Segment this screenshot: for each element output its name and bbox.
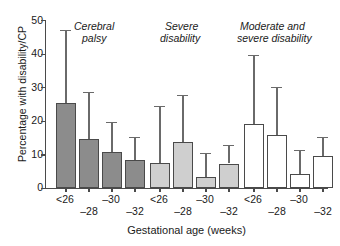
x-tick-mark-9 [253, 188, 254, 192]
x-tick-label-severe-disability-30: –30 [188, 194, 222, 205]
error-bar-cap-moderate-severe-30 [294, 150, 305, 151]
error-bar-cap-severe-disability-28 [177, 95, 188, 96]
x-tick-mark-3 [111, 188, 112, 192]
x-tick-mark-2 [88, 188, 89, 192]
bar-moderate-severe-lt26 [244, 124, 264, 188]
error-bar-stem-moderate-severe-28 [276, 87, 277, 135]
error-bar-cap-severe-disability-30 [200, 153, 211, 154]
error-bar-cap-moderate-severe-28 [271, 87, 282, 88]
x-tick-label-moderate-severe-30: –30 [282, 194, 316, 205]
x-tick-label-severe-disability-32: –32 [212, 206, 246, 217]
y-tick-label-40: 40 [3, 48, 43, 59]
error-bar-stem-severe-disability-28 [182, 95, 183, 142]
x-tick-label-severe-disability-28: –28 [166, 206, 200, 217]
error-bar-cap-cerebral-palsy-32 [129, 137, 140, 138]
bar-severe-disability-28 [173, 142, 193, 188]
error-bar-cap-severe-disability-lt26 [154, 106, 165, 107]
y-tick-label-10: 10 [3, 149, 43, 160]
x-tick-label-cerebral-palsy-lt26: <26 [48, 194, 82, 205]
error-bar-cap-severe-disability-32 [223, 145, 234, 146]
x-tick-mark-5 [159, 188, 160, 192]
error-bar-stem-moderate-severe-lt26 [253, 55, 254, 124]
x-tick-mark-10 [276, 188, 277, 192]
error-bar-cap-cerebral-palsy-28 [83, 92, 94, 93]
group-title-severe-disability-line1: Severe [165, 20, 198, 32]
bar-cerebral-palsy-28 [79, 139, 99, 188]
y-tick-label-20: 20 [3, 115, 43, 126]
bar-cerebral-palsy-lt26 [56, 103, 76, 188]
group-title-severe-disability-line2: disability [160, 32, 200, 44]
y-tick-label-30: 30 [3, 82, 43, 93]
x-tick-mark-1 [65, 188, 66, 192]
group-title-moderate-severe-line2: severe disability [237, 32, 312, 44]
bar-severe-disability-32 [219, 164, 239, 189]
error-bar-stem-cerebral-palsy-32 [134, 137, 135, 160]
error-bar-stem-cerebral-palsy-28 [88, 92, 89, 139]
group-title-moderate-severe-line1: Moderate and [240, 20, 305, 32]
bar-moderate-severe-28 [267, 135, 287, 188]
group-title-cerebral-palsy-line2: palsy [82, 32, 107, 44]
x-tick-mark-11 [299, 188, 300, 192]
bar-cerebral-palsy-30 [102, 152, 122, 188]
bar-severe-disability-lt26 [150, 163, 170, 188]
y-axis-line [45, 20, 46, 188]
error-bar-stem-moderate-severe-32 [322, 137, 323, 157]
y-tick-label-0: 0 [3, 182, 43, 193]
bar-chart: Percentage with disability/CP 50 40 30 2… [0, 0, 340, 246]
x-tick-label-cerebral-palsy-30: –30 [94, 194, 128, 205]
error-bar-stem-severe-disability-32 [228, 145, 229, 163]
x-tick-label-cerebral-palsy-32: –32 [118, 206, 152, 217]
x-tick-label-cerebral-palsy-28: –28 [72, 206, 106, 217]
error-bar-stem-cerebral-palsy-30 [111, 122, 112, 152]
error-bar-cap-cerebral-palsy-30 [106, 122, 117, 123]
x-tick-label-moderate-severe-28: –28 [260, 206, 294, 217]
x-tick-mark-8 [228, 188, 229, 192]
error-bar-stem-severe-disability-lt26 [159, 106, 160, 163]
error-bar-stem-cerebral-palsy-lt26 [65, 30, 66, 103]
x-tick-mark-6 [182, 188, 183, 192]
group-title-cerebral-palsy-line1: Cerebral [74, 20, 114, 32]
error-bar-stem-moderate-severe-30 [299, 150, 300, 174]
y-tick-label-50: 50 [3, 15, 43, 26]
x-tick-label-moderate-severe-32: –32 [306, 206, 340, 217]
bar-severe-disability-30 [196, 177, 216, 188]
x-tick-mark-4 [134, 188, 135, 192]
error-bar-cap-moderate-severe-lt26 [248, 55, 259, 56]
error-bar-cap-cerebral-palsy-lt26 [60, 30, 71, 31]
x-tick-label-moderate-severe-lt26: <26 [236, 194, 270, 205]
x-tick-mark-7 [205, 188, 206, 192]
bar-moderate-severe-30 [290, 174, 310, 188]
bar-cerebral-palsy-32 [125, 160, 145, 188]
error-bar-stem-severe-disability-30 [205, 153, 206, 177]
x-tick-label-severe-disability-lt26: <26 [142, 194, 176, 205]
error-bar-cap-moderate-severe-32 [317, 137, 328, 138]
x-tick-mark-12 [322, 188, 323, 192]
x-axis-title: Gestational age (weeks) [45, 224, 328, 236]
bar-moderate-severe-32 [313, 156, 333, 188]
